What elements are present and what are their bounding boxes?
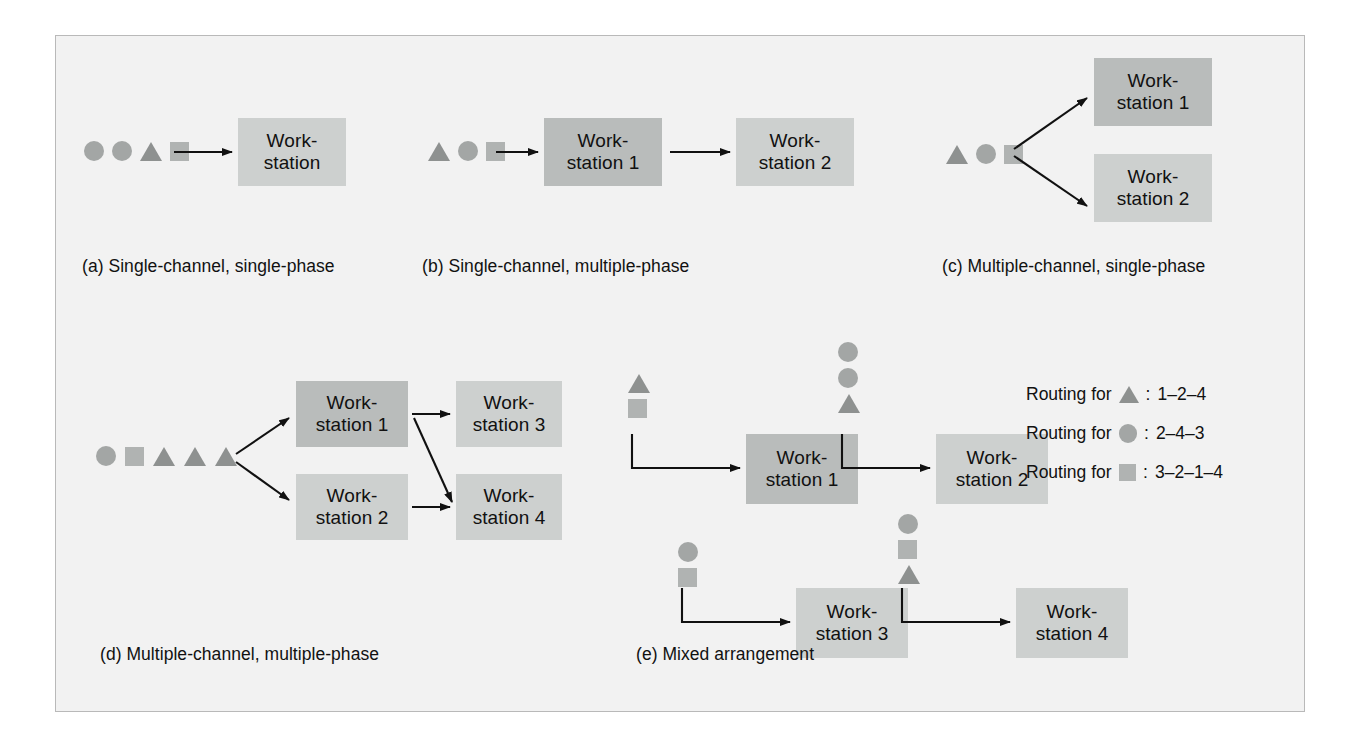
- panel-c-caption: (c) Multiple-channel, single-phase: [942, 256, 1205, 277]
- square-entity-icon: [678, 568, 697, 587]
- triangle-entity-icon: [215, 447, 237, 466]
- panel-b-workstation-1[interactable]: Work-station 1: [544, 118, 662, 186]
- routing-legend-prefix: Routing for: [1026, 423, 1112, 444]
- square-entity-icon: [1004, 145, 1023, 164]
- panel-e-queue-4: [898, 514, 920, 584]
- panel-c-queue: [946, 144, 1023, 164]
- panel-d-workstation-4[interactable]: Work-station 4: [456, 474, 562, 540]
- routing-legend-prefix: Routing for: [1026, 384, 1112, 405]
- circle-entity-icon: [678, 542, 698, 562]
- routing-legend-row-2: Routing for:2–4–3: [1026, 423, 1205, 444]
- panel-d-workstation-2[interactable]: Work-station 2: [296, 474, 408, 540]
- square-entity-icon: [1119, 464, 1136, 481]
- arrow-c-queue-to-ws1: [1014, 98, 1087, 149]
- panel-e-workstation-1[interactable]: Work-station 1: [746, 434, 858, 504]
- routing-legend-route: 2–4–3: [1156, 423, 1205, 444]
- circle-entity-icon: [976, 144, 996, 164]
- routing-legend-separator: :: [1144, 423, 1149, 444]
- arrow-e-queue4-to-ws4: [902, 588, 1010, 622]
- arrow-d-ws1-to-ws4: [414, 418, 452, 502]
- panel-d-caption: (d) Multiple-channel, multiple-phase: [100, 644, 379, 665]
- panel-d-workstation-3[interactable]: Work-station 3: [456, 381, 562, 447]
- triangle-entity-icon: [153, 447, 175, 466]
- square-entity-icon: [125, 447, 144, 466]
- arrow-c-queue-to-ws2: [1014, 156, 1087, 206]
- square-entity-icon: [628, 399, 647, 418]
- circle-entity-icon: [838, 368, 858, 388]
- square-entity-icon: [486, 142, 505, 161]
- routing-legend-separator: :: [1143, 462, 1148, 483]
- circle-entity-icon: [84, 141, 104, 161]
- triangle-entity-icon: [898, 565, 920, 584]
- triangle-entity-icon: [946, 145, 968, 164]
- panel-c-workstation-1[interactable]: Work-station 1: [1094, 58, 1212, 126]
- arrow-e-queue1-to-ws1: [632, 434, 740, 468]
- square-entity-icon: [898, 540, 917, 559]
- circle-entity-icon: [96, 446, 116, 466]
- triangle-entity-icon: [184, 447, 206, 466]
- triangle-entity-icon: [838, 394, 860, 413]
- circle-entity-icon: [898, 514, 918, 534]
- routing-legend-separator: :: [1146, 384, 1151, 405]
- routing-legend-row-3: Routing for:3–2–1–4: [1026, 462, 1223, 483]
- triangle-entity-icon: [140, 142, 162, 161]
- circle-entity-icon: [458, 141, 478, 161]
- routing-legend-prefix: Routing for: [1026, 462, 1112, 483]
- triangle-entity-icon: [1119, 386, 1139, 403]
- panel-c-workstation-2[interactable]: Work-station 2: [1094, 154, 1212, 222]
- panel-e-queue-1: [628, 374, 650, 418]
- panel-d-workstation-1[interactable]: Work-station 1: [296, 381, 408, 447]
- routing-legend-row-1: Routing for:1–2–4: [1026, 384, 1206, 405]
- circle-entity-icon: [112, 141, 132, 161]
- panel-b-caption: (b) Single-channel, multiple-phase: [422, 256, 689, 277]
- routing-legend-route: 3–2–1–4: [1155, 462, 1223, 483]
- panel-e-queue-2: [838, 342, 860, 413]
- queuing-systems-figure: Work-station (a) Single-channel, single-…: [0, 0, 1362, 736]
- circle-entity-icon: [1119, 424, 1137, 442]
- routing-legend-route: 1–2–4: [1157, 384, 1206, 405]
- panel-e-caption: (e) Mixed arrangement: [636, 644, 814, 665]
- arrow-d-queue-to-ws2: [236, 462, 289, 500]
- panel-b-workstation-2[interactable]: Work-station 2: [736, 118, 854, 186]
- triangle-entity-icon: [628, 374, 650, 393]
- panel-a-caption: (a) Single-channel, single-phase: [82, 256, 335, 277]
- panel-e-workstation-4[interactable]: Work-station 4: [1016, 588, 1128, 658]
- panel-b-queue: [428, 141, 505, 161]
- square-entity-icon: [170, 142, 189, 161]
- triangle-entity-icon: [428, 142, 450, 161]
- panel-a-workstation[interactable]: Work-station: [238, 118, 346, 186]
- panel-d-queue: [96, 446, 237, 466]
- circle-entity-icon: [838, 342, 858, 362]
- figure-frame: Work-station (a) Single-channel, single-…: [55, 35, 1305, 712]
- panel-e-queue-3: [678, 542, 698, 587]
- panel-a-queue: [84, 141, 189, 161]
- arrow-e-queue3-to-ws3: [682, 588, 790, 622]
- arrow-d-queue-to-ws1: [236, 418, 289, 454]
